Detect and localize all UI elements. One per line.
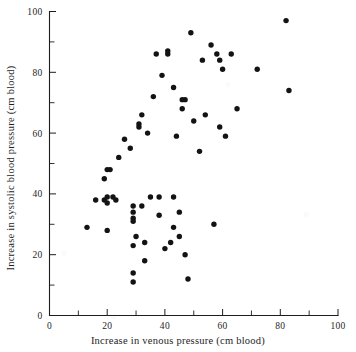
data-point xyxy=(211,222,216,227)
y-tick-label: 40 xyxy=(32,189,42,199)
data-point xyxy=(139,112,144,117)
data-point xyxy=(148,194,153,199)
data-point xyxy=(122,136,127,141)
data-point xyxy=(177,234,182,239)
y-tick-label: 20 xyxy=(32,250,42,260)
data-point xyxy=(156,194,161,199)
data-point xyxy=(128,146,133,151)
y-axis-ticks xyxy=(50,12,57,286)
data-point xyxy=(177,209,182,214)
data-points-layer xyxy=(84,18,291,285)
data-point xyxy=(154,51,159,56)
data-point xyxy=(105,228,110,233)
data-point xyxy=(136,121,141,126)
data-point xyxy=(130,203,135,208)
data-point xyxy=(84,225,89,230)
data-point xyxy=(182,252,187,257)
x-tick-label: 40 xyxy=(160,321,170,331)
data-point xyxy=(107,167,112,172)
x-axis-title: Increase in venous pressure (cm blood) xyxy=(91,335,265,347)
data-point xyxy=(142,240,147,245)
data-point xyxy=(185,276,190,281)
plot-svg: 020406080100 020406080100 Increase in ve… xyxy=(0,0,356,352)
data-point xyxy=(93,197,98,202)
x-axis-tick-labels: 020406080100 xyxy=(47,321,346,331)
data-point xyxy=(200,57,205,62)
data-point xyxy=(197,149,202,154)
data-point xyxy=(102,176,107,181)
data-point xyxy=(156,212,161,217)
data-point xyxy=(130,243,135,248)
data-point xyxy=(116,155,121,160)
x-tick-label: 0 xyxy=(47,321,52,331)
data-point xyxy=(130,270,135,275)
data-point xyxy=(188,30,193,35)
data-point xyxy=(133,234,138,239)
data-point xyxy=(203,112,208,117)
data-point xyxy=(220,67,225,72)
data-point xyxy=(174,133,179,138)
data-point xyxy=(182,97,187,102)
data-point xyxy=(217,124,222,129)
data-point xyxy=(145,130,150,135)
x-tick-label: 60 xyxy=(218,321,228,331)
y-tick-label: 80 xyxy=(32,68,42,78)
scatter-plot-figure: 020406080100 020406080100 Increase in ve… xyxy=(0,0,356,352)
data-point xyxy=(180,106,185,111)
data-point xyxy=(171,225,176,230)
x-tick-label: 80 xyxy=(275,321,285,331)
y-axis-tick-labels: 020406080100 xyxy=(27,7,42,321)
data-point xyxy=(171,85,176,90)
data-point xyxy=(151,94,156,99)
data-point xyxy=(130,219,135,224)
data-point xyxy=(165,51,170,56)
x-tick-label: 100 xyxy=(330,321,345,331)
data-point xyxy=(130,209,135,214)
data-point xyxy=(142,258,147,263)
axes-group: 020406080100 020406080100 xyxy=(27,7,345,331)
y-tick-label: 100 xyxy=(27,7,42,17)
data-point xyxy=(105,194,110,199)
x-tick-label: 20 xyxy=(102,321,112,331)
data-point xyxy=(234,106,239,111)
data-point xyxy=(159,73,164,78)
data-point xyxy=(168,240,173,245)
data-point xyxy=(130,279,135,284)
x-axis-ticks xyxy=(78,309,338,316)
data-point xyxy=(229,51,234,56)
data-point xyxy=(171,194,176,199)
y-tick-label: 60 xyxy=(32,129,42,139)
data-point xyxy=(113,197,118,202)
data-point xyxy=(191,118,196,123)
data-point xyxy=(283,18,288,23)
data-point xyxy=(162,246,167,251)
data-point xyxy=(217,57,222,62)
data-point xyxy=(214,51,219,56)
data-point xyxy=(105,200,110,205)
data-point xyxy=(223,133,228,138)
data-point xyxy=(208,42,213,47)
y-tick-label: 0 xyxy=(37,311,42,321)
data-point xyxy=(286,88,291,93)
y-axis-title: Increase in systolic blood pressure (cm … xyxy=(5,65,17,270)
data-point xyxy=(139,203,144,208)
data-point xyxy=(255,67,260,72)
